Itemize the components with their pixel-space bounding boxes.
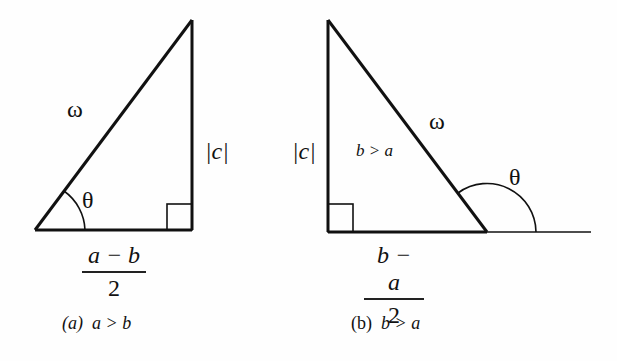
base-denominator-a: 2 xyxy=(82,275,146,302)
fraction-bar-a xyxy=(82,271,146,273)
triangle-b xyxy=(328,20,591,232)
hypotenuse-b xyxy=(328,20,487,232)
caption-tag-b: (b) xyxy=(351,313,372,333)
caption-text-b: b > a xyxy=(381,313,420,333)
hypotenuse-label-a: ω xyxy=(67,96,83,123)
vertical-label-a: |c| xyxy=(205,138,229,165)
caption-b: (b) b > a xyxy=(351,313,420,334)
caption-a: (a) a > b xyxy=(62,313,131,334)
inner-condition-label-b: b > a xyxy=(356,141,393,161)
base-numerator-a: a − b xyxy=(82,242,146,269)
caption-tag-a: (a) xyxy=(62,313,83,333)
caption-text-a: a > b xyxy=(92,313,131,333)
hypotenuse-a xyxy=(35,20,192,230)
right-angle-marker-a xyxy=(167,204,192,230)
base-numerator-b: b − a xyxy=(364,242,424,296)
vertical-label-b: |c| xyxy=(292,138,316,165)
fraction-bar-b xyxy=(364,298,424,300)
geometry-layer xyxy=(0,0,617,361)
hypotenuse-label-b: ω xyxy=(429,108,445,135)
right-angle-marker-b xyxy=(328,204,353,232)
diagram-canvas: ω |c| θ a − b 2 (a) a > b ω |c| b > a θ … xyxy=(0,0,617,361)
angle-label-b: θ xyxy=(509,164,521,191)
base-fraction-a: a − b 2 xyxy=(82,242,146,302)
triangle-a xyxy=(35,20,192,230)
angle-label-a: θ xyxy=(82,187,94,214)
